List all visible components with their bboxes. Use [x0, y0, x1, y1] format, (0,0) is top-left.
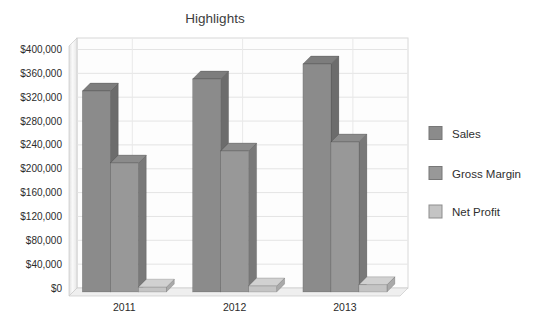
legend-item-net-profit: Net Profit — [429, 205, 501, 218]
legend-item-sales: Sales — [429, 127, 481, 140]
bar-net-profit-2011 — [138, 287, 166, 292]
y-axis-tick-label: $160,000 — [20, 187, 62, 198]
plot-area: $0$40,000$80,000$120,000$160,000$200,000… — [20, 38, 408, 313]
legend-swatch-gross-margin — [429, 167, 442, 180]
bar-gross-margin-2013-side — [359, 134, 367, 292]
legend-item-gross-margin: Gross Margin — [429, 167, 521, 180]
legend-swatch-net-profit — [429, 205, 442, 218]
bar-sales-2012 — [193, 79, 221, 292]
legend-swatch-sales — [429, 127, 442, 140]
bar-net-profit-2012 — [249, 286, 277, 292]
chart-title: Highlights — [185, 11, 245, 26]
bar-gross-margin-2011-side — [138, 155, 146, 292]
y-axis-tick-label: $320,000 — [20, 92, 62, 103]
legend: Sales Gross Margin Net Profit — [429, 127, 521, 219]
bar-net-profit-2013 — [359, 285, 387, 292]
chart-canvas: $0$40,000$80,000$120,000$160,000$200,000… — [0, 0, 539, 330]
bar-gross-margin-2012 — [221, 151, 249, 292]
x-axis-label-2012: 2012 — [223, 301, 247, 313]
x-axis-label-2013: 2013 — [333, 301, 357, 313]
y-axis-tick-label: $240,000 — [20, 139, 62, 150]
legend-label-sales: Sales — [452, 128, 481, 140]
y-axis-tick-label: $80,000 — [26, 235, 63, 246]
x-axis-label-2011: 2011 — [113, 301, 136, 313]
bar-sales-2011 — [82, 91, 110, 292]
legend-label-gross-margin: Gross Margin — [452, 168, 521, 180]
y-axis-tick-label: $40,000 — [26, 259, 63, 270]
legend-label-net-profit: Net Profit — [452, 206, 501, 218]
y-axis-tick-label: $280,000 — [20, 116, 62, 127]
y-axis-tick-label: $200,000 — [20, 163, 62, 174]
bar-gross-margin-2013 — [331, 142, 359, 292]
highlights-chart: $0$40,000$80,000$120,000$160,000$200,000… — [0, 0, 539, 330]
side-wall — [69, 38, 77, 296]
y-axis-tick-label: $120,000 — [20, 211, 62, 222]
bar-sales-2013 — [303, 64, 331, 292]
y-axis-tick-label: $400,000 — [20, 44, 62, 55]
bar-gross-margin-2012-side — [249, 143, 257, 292]
y-axis-tick-label: $0 — [51, 283, 63, 294]
y-axis-tick-label: $360,000 — [20, 68, 62, 79]
bar-gross-margin-2011 — [110, 163, 138, 292]
